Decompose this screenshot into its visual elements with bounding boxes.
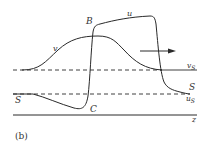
- label-C: C: [90, 104, 97, 114]
- label-us: uS: [186, 94, 195, 104]
- label-vs: vS: [187, 61, 195, 71]
- label-S-left: S: [15, 95, 21, 105]
- propagation-arrow-head: [168, 49, 176, 54]
- label-B: B: [85, 16, 93, 26]
- panel-label: (b): [15, 131, 28, 141]
- label-v: v: [53, 44, 58, 53]
- label-z: z: [191, 115, 196, 124]
- label-u: u: [127, 9, 132, 18]
- wave-profile-diagram: B u v vS S uS S C z (b): [0, 0, 210, 147]
- label-S-right: S: [189, 82, 195, 92]
- u-curve: [13, 16, 190, 109]
